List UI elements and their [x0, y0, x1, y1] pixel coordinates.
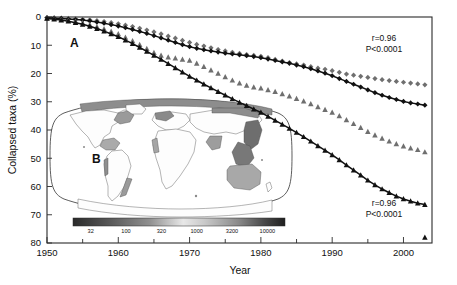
data-point [394, 97, 399, 102]
x-tick-label: 2000 [393, 247, 414, 258]
data-point [351, 121, 357, 126]
series-black-diamonds [44, 15, 427, 107]
x-tick-label: 1990 [322, 247, 343, 258]
data-point [230, 77, 236, 82]
annotation-bottom-p: P<0.0001 [366, 209, 403, 219]
data-point [272, 89, 278, 94]
annotation-bottom-r: r=0.96 [372, 198, 397, 208]
data-point [344, 71, 349, 76]
data-point [151, 33, 156, 38]
y-axis-ticks: 01020304050607080 [30, 11, 52, 248]
data-point [287, 61, 292, 66]
x-tick-label: 1950 [36, 247, 57, 258]
data-point [208, 48, 213, 53]
y-tick-label: 60 [30, 181, 41, 192]
data-point [415, 147, 421, 152]
y-tick-label: 10 [30, 40, 41, 51]
data-point [358, 84, 363, 89]
data-point [301, 98, 307, 103]
data-point [408, 81, 413, 86]
x-tick-label: 1970 [179, 247, 200, 258]
annotation-top: r=0.96 P<0.0001 [366, 33, 403, 54]
colorbar-tick-label: 3200 [226, 228, 238, 234]
data-point [180, 56, 186, 61]
colorbar-tick-label: 1000 [190, 228, 202, 234]
x-tick-label: 1980 [250, 247, 271, 258]
data-point [408, 100, 413, 105]
data-point [330, 68, 335, 73]
data-point [315, 143, 321, 148]
data-point [379, 77, 384, 82]
data-point [187, 44, 192, 49]
data-point [365, 87, 370, 92]
data-point [322, 147, 328, 152]
data-point [401, 143, 407, 148]
map-island-dot [83, 146, 85, 148]
data-point [401, 80, 406, 85]
data-point [294, 96, 300, 101]
data-point [358, 74, 363, 79]
data-point [287, 93, 293, 98]
y-tick-label: 70 [30, 209, 41, 220]
y-tick-label: 0 [36, 11, 41, 22]
data-point [372, 76, 377, 81]
data-point [315, 104, 321, 109]
data-point [351, 82, 356, 87]
data-point [365, 129, 371, 134]
colorbar-tick-label: 100 [121, 228, 130, 234]
data-point [358, 125, 364, 130]
map-shelf-australia [227, 164, 261, 190]
data-point [251, 84, 257, 89]
data-point [165, 54, 171, 59]
data-point [173, 40, 178, 45]
data-point [415, 81, 420, 86]
colorbar-tick-label: 10000 [260, 228, 276, 234]
x-tick-label: 1960 [108, 247, 129, 258]
data-point [180, 42, 185, 47]
data-point [187, 58, 193, 63]
data-point [386, 138, 392, 143]
data-point [401, 99, 406, 104]
map-inset-panel-b: B [50, 96, 292, 217]
data-point [379, 93, 384, 98]
data-point [244, 82, 250, 87]
data-point [237, 80, 243, 85]
y-axis-title: Collapsed taxa (%) [6, 86, 18, 175]
data-point [194, 60, 200, 65]
data-point [130, 27, 135, 32]
data-point [394, 79, 399, 84]
data-point [337, 113, 343, 118]
data-point [329, 152, 335, 157]
data-point [351, 73, 356, 78]
data-point [372, 132, 378, 137]
data-point [258, 85, 264, 90]
data-point-outlier [422, 234, 428, 239]
data-point [222, 74, 228, 79]
map-island-dot [195, 195, 197, 197]
y-tick-label: 40 [30, 124, 41, 135]
data-point [372, 90, 377, 95]
colorbar-tick-label: 320 [157, 228, 166, 234]
data-point [208, 67, 214, 72]
data-point [422, 103, 427, 108]
data-point [344, 79, 349, 84]
data-point [372, 182, 378, 187]
colorbar-legend: 321003201000320010000 [73, 218, 285, 234]
data-point [265, 87, 271, 92]
colorbar-gradient-bar [73, 218, 285, 226]
figure-svg: B 321003201000320010000 [0, 0, 457, 285]
colorbar-ticks: 321003201000320010000 [88, 228, 276, 234]
data-point [344, 117, 350, 122]
data-point [337, 76, 342, 81]
data-point [330, 73, 335, 78]
data-point [308, 138, 314, 143]
data-point [201, 64, 207, 69]
data-point [408, 145, 414, 150]
data-point [422, 149, 428, 154]
figure-container: B 321003201000320010000 [0, 0, 457, 285]
y-tick-label: 20 [30, 68, 41, 79]
data-point [173, 55, 179, 60]
data-point [158, 35, 163, 40]
panel-a-label: A [70, 36, 79, 50]
y-tick-label: 50 [30, 153, 41, 164]
